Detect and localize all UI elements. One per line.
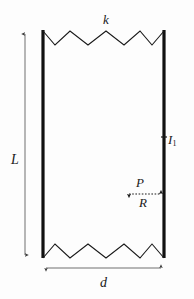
top-spring-zigzag: [43, 31, 164, 45]
length-label: L: [11, 153, 19, 167]
reaction-r-label: R: [139, 196, 147, 209]
spring-stiffness-label: k: [103, 13, 109, 26]
load-p-label: P: [136, 176, 144, 189]
moment-of-inertia-subscript: 1: [173, 139, 177, 148]
bottom-spring-zigzag: [43, 244, 164, 258]
diagram-canvas: [0, 0, 194, 299]
spring-beam-diagram: k L I1 P R d: [0, 0, 194, 299]
moment-of-inertia-label: I1: [168, 133, 176, 146]
moment-of-inertia-symbol: I: [168, 132, 172, 147]
width-label: d: [100, 276, 107, 290]
